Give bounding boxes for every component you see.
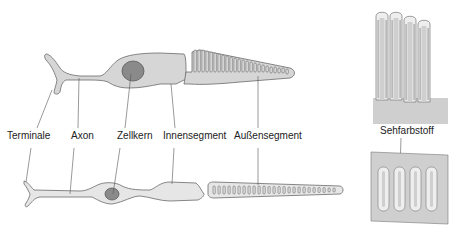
label-innensegment: Innensegment xyxy=(163,130,226,142)
rod-nucleus xyxy=(105,188,119,200)
label-axon: Axon xyxy=(71,130,94,142)
label-terminale: Terminale xyxy=(7,130,50,142)
label-zellkern: Zellkern xyxy=(117,130,153,142)
rod-inset xyxy=(371,152,448,224)
photoreceptor-diagram xyxy=(0,0,456,236)
cone-inset xyxy=(373,12,448,124)
rod-cell xyxy=(24,181,343,207)
cone-body xyxy=(45,53,186,94)
label-sehfarbstoff: Sehfarbstoff xyxy=(380,125,434,137)
cone-cell xyxy=(45,50,295,94)
label-aussensegment: Außensegment xyxy=(234,130,302,142)
cone-nucleus xyxy=(122,61,144,81)
